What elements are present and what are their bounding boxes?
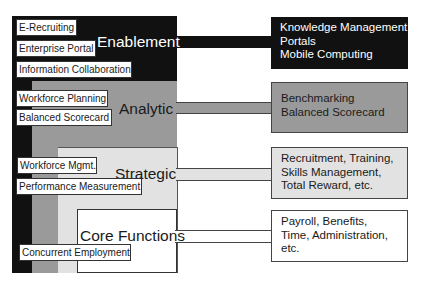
item-concurrent-employment: Concurrent Employment (19, 244, 131, 261)
item-workforce-mgmt: Workforce Mgmt. (17, 157, 97, 174)
item-performance-measurement: Performance Measurement (16, 178, 142, 195)
core-functions-detail-box: Payroll, Benefits, Time, Administration,… (271, 210, 408, 262)
analytic-title: Analytic (119, 101, 173, 117)
strategic-detail-box: Recruitment, Training, Skills Management… (271, 147, 408, 199)
analytic-connector (176, 102, 273, 114)
item-balanced-scorecard: Balanced Scorecard (16, 109, 112, 126)
item-e-recruiting: E-Recruiting (16, 19, 77, 36)
strategic-connector (176, 168, 273, 181)
core-connector (175, 230, 273, 243)
enablement-detail-box: Knowledge Management Portals Mobile Comp… (271, 17, 408, 69)
item-information-collaboration: Information Collaboration (16, 61, 132, 78)
item-workforce-planning: Workforce Planning (16, 90, 108, 107)
analytic-detail-box: Benchmarking Balanced Scorecard (271, 82, 408, 133)
core-functions-title: Core Functions (80, 228, 185, 244)
enablement-title: Enablement (97, 34, 180, 50)
enablement-connector (176, 36, 273, 48)
item-enterprise-portal: Enterprise Portal (16, 40, 96, 57)
